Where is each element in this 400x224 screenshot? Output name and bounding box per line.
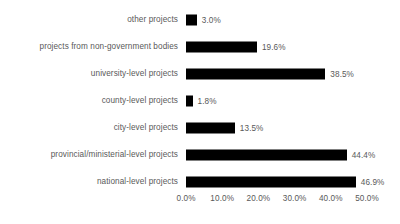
bar[interactable] <box>186 95 193 106</box>
bar[interactable] <box>186 14 197 25</box>
bar-row: national-level projects46.9% <box>0 168 400 195</box>
bar-row: county-level projects1.8% <box>0 87 400 114</box>
x-axis-tick-label: 50.0% <box>355 194 379 203</box>
bar-track: 38.5% <box>186 68 354 79</box>
x-axis: 0.0%10.0%20.0%30.0%40.0%50.0% <box>0 194 400 214</box>
bar-track: 1.8% <box>186 95 217 106</box>
x-axis-tick-label: 20.0% <box>247 194 271 203</box>
bar[interactable] <box>186 68 325 79</box>
bar-track: 19.6% <box>186 41 286 52</box>
bar-row: other projects3.0% <box>0 6 400 33</box>
category-label: national-level projects <box>0 176 178 187</box>
x-axis-tick-label: 0.0% <box>177 194 196 203</box>
bar-value-label: 1.8% <box>198 96 217 105</box>
category-label: city-level projects <box>0 122 178 133</box>
bar-value-label: 38.5% <box>330 69 354 78</box>
bar-row: university-level projects38.5% <box>0 60 400 87</box>
bar-track: 46.9% <box>186 176 384 187</box>
bar-value-label: 44.4% <box>352 150 376 159</box>
bar-value-label: 46.9% <box>361 177 385 186</box>
bar-track: 13.5% <box>186 122 264 133</box>
bar-row: city-level projects13.5% <box>0 114 400 141</box>
bar-track: 44.4% <box>186 149 375 160</box>
bar[interactable] <box>186 41 257 52</box>
x-axis-tick-label: 10.0% <box>210 194 234 203</box>
bar-chart: other projects3.0%projects from non-gove… <box>0 0 400 224</box>
bar[interactable] <box>186 176 356 187</box>
category-label: other projects <box>0 14 178 25</box>
category-label: county-level projects <box>0 95 178 106</box>
bar-value-label: 19.6% <box>262 42 286 51</box>
plot-area: other projects3.0%projects from non-gove… <box>0 0 400 190</box>
category-label: university-level projects <box>0 68 178 79</box>
bar[interactable] <box>186 149 347 160</box>
category-label: provincial/ministerial-level projects <box>0 149 178 160</box>
bar-track: 3.0% <box>186 14 221 25</box>
bar-value-label: 13.5% <box>240 123 264 132</box>
bar-row: projects from non-government bodies19.6% <box>0 33 400 60</box>
category-label: projects from non-government bodies <box>0 41 178 52</box>
x-axis-tick-label: 30.0% <box>283 194 307 203</box>
x-axis-tick-label: 40.0% <box>319 194 343 203</box>
bar-value-label: 3.0% <box>202 15 221 24</box>
bar-row: provincial/ministerial-level projects44.… <box>0 141 400 168</box>
bar[interactable] <box>186 122 235 133</box>
